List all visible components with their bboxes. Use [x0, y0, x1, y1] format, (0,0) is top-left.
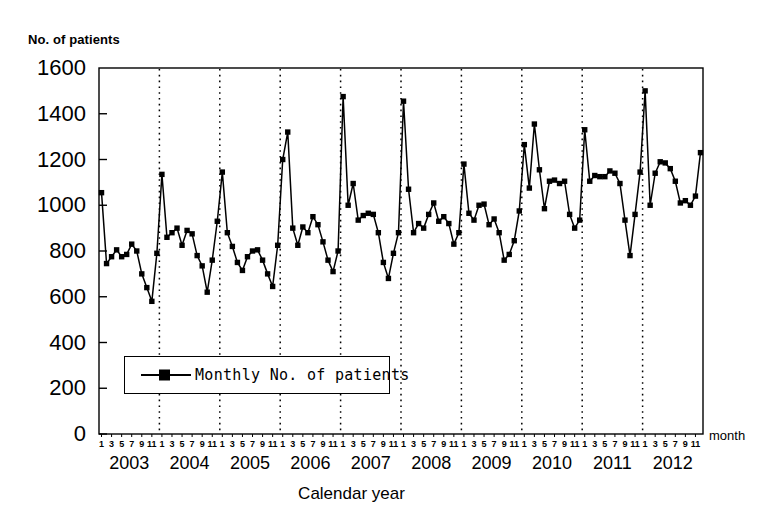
chart-legend: Monthly No. of patients	[124, 356, 390, 394]
chart-figure: No. of patients Calendar year month 0200…	[0, 0, 775, 524]
legend-label: Monthly No. of patients	[195, 366, 410, 384]
legend-marker-icon	[139, 366, 195, 384]
plot-area	[0, 0, 775, 524]
